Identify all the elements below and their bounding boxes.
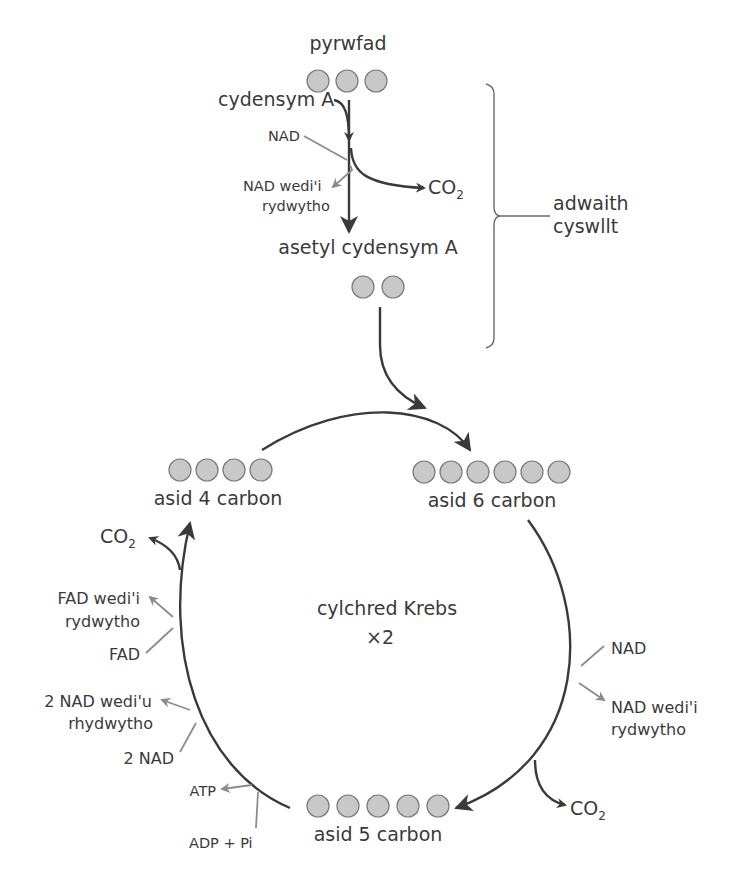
carbon-atom	[352, 276, 374, 298]
krebs-cycle: asid 4 carbon asid 6 carbon NAD NAD wedi…	[44, 412, 697, 851]
four-carbon-molecule	[169, 459, 272, 481]
atp-arrow	[222, 785, 252, 789]
nad-label: NAD	[268, 128, 300, 144]
krebs-cycle-multiplier: ×2	[366, 626, 394, 648]
reduced-fad-line1: FAD wedi'i	[58, 589, 140, 608]
six-to-five-carbon-arrow	[456, 520, 570, 808]
reduced-nad-label-line2: rydwytho	[262, 198, 330, 214]
link-co2-arrow	[351, 148, 424, 188]
two-nad-label: 2 NAD	[124, 749, 175, 768]
right-co2-label: CO2	[570, 797, 606, 823]
right-co2-arrow	[535, 760, 565, 805]
five-to-four-carbon-arrow	[180, 523, 290, 808]
carbon-atom	[250, 459, 272, 481]
carbon-atom	[382, 276, 404, 298]
carbon-atom	[467, 461, 489, 483]
bracket-label-line1: adwaith	[553, 192, 629, 214]
reduced-2nad-line2: rhydwytho	[68, 714, 153, 733]
pyruvate-label: pyrwfad	[309, 32, 386, 54]
carbon-atom	[494, 461, 516, 483]
carbon-atom	[336, 70, 358, 92]
reduced-2nad-arrow	[162, 700, 190, 710]
acetyl-molecule	[352, 276, 404, 298]
right-reduced-nad-line1: NAD wedi'i	[611, 698, 698, 717]
atp-label: ATP	[190, 783, 217, 799]
left-co2-arrow	[150, 538, 180, 570]
carbon-atom	[196, 459, 218, 481]
right-reduced-nad-arrow	[579, 683, 604, 700]
carbon-atom	[169, 459, 191, 481]
adp-label: ADP + Pi	[189, 835, 253, 851]
carbon-atom	[397, 795, 419, 817]
right-reduced-nad-line2: rydwytho	[611, 720, 686, 739]
carbon-atom	[307, 795, 329, 817]
nad-line	[304, 136, 347, 160]
reduced-fad-line2: rydwytho	[65, 612, 140, 631]
right-nad-label: NAD	[611, 639, 646, 658]
five-carbon-molecule	[307, 795, 449, 817]
carbon-atom	[427, 795, 449, 817]
right-nad-line	[581, 646, 604, 666]
carbon-atom	[440, 461, 462, 483]
acetyl-into-cycle-arrow	[380, 307, 425, 408]
bracket-label-line2: cyswllt	[553, 215, 618, 237]
coenzyme-a-arrow	[334, 100, 349, 140]
reduced-fad-arrow	[150, 597, 173, 617]
link-reaction-bracket	[486, 84, 550, 348]
reduced-2nad-line1: 2 NAD wedi'u	[44, 692, 152, 711]
six-carbon-label: asid 6 carbon	[428, 489, 557, 511]
acetyl-coa-label: asetyl cydensym A	[278, 236, 457, 258]
fad-label: FAD	[109, 645, 140, 664]
krebs-cycle-diagram: pyrwfad cydensym A NAD NAD wedi'i rydwyt…	[0, 0, 734, 887]
carbon-atom	[337, 795, 359, 817]
five-carbon-label: asid 5 carbon	[314, 823, 443, 845]
link-reaction: pyrwfad cydensym A NAD NAD wedi'i rydwyt…	[218, 32, 629, 408]
carbon-atom	[223, 459, 245, 481]
four-to-six-carbon-arrow	[262, 412, 470, 450]
four-carbon-label: asid 4 carbon	[154, 487, 283, 509]
link-co2-label: CO2	[428, 176, 464, 202]
krebs-cycle-title: cylchred Krebs	[317, 597, 457, 619]
carbon-atom	[413, 461, 435, 483]
six-carbon-molecule	[413, 461, 570, 483]
coenzyme-a-label: cydensym A	[218, 88, 334, 110]
adp-line	[256, 792, 258, 828]
two-nad-line	[180, 723, 196, 752]
left-co2-label: CO2	[100, 525, 136, 551]
reduced-nad-label-line1: NAD wedi'i	[243, 178, 322, 194]
carbon-atom	[521, 461, 543, 483]
fad-line	[146, 628, 173, 653]
carbon-atom	[365, 70, 387, 92]
carbon-atom	[367, 795, 389, 817]
carbon-atom	[548, 461, 570, 483]
